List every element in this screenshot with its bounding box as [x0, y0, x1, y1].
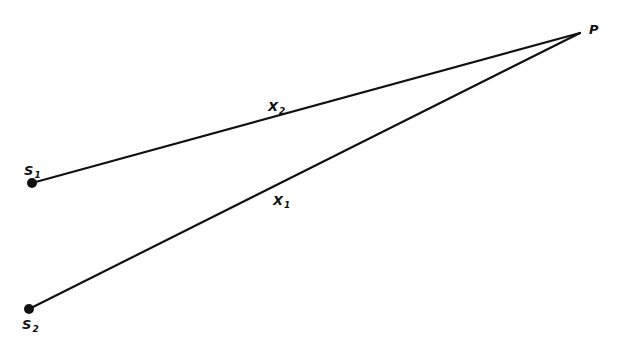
label-p-text: P [589, 22, 599, 37]
label-x2: X2 [268, 100, 285, 113]
label-x1-subscript: 1 [284, 200, 290, 210]
diagram-canvas: S1 S2 P X2 X1 [0, 0, 617, 355]
source-point-s2 [24, 304, 34, 314]
label-s2: S2 [22, 318, 39, 331]
label-s2-text: S [22, 317, 31, 332]
segment-s1-p [32, 33, 580, 183]
label-s1-text: S [24, 163, 33, 178]
label-x2-text: X [268, 99, 278, 114]
segment-s2-p [29, 33, 580, 309]
label-x2-subscript: 2 [279, 106, 285, 116]
label-s2-subscript: 2 [32, 324, 38, 334]
label-s1: S1 [24, 164, 41, 177]
label-x1-text: X [273, 193, 283, 208]
label-s1-subscript: 1 [34, 170, 40, 180]
label-x1: X1 [273, 194, 290, 207]
label-p: P [589, 23, 599, 36]
diagram-lines [0, 0, 617, 355]
